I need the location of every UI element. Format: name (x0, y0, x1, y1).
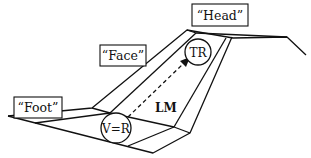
face-label-box: “Face” (100, 45, 146, 66)
circle-tr: TR (185, 39, 211, 65)
circle-v-r-label: V=R (101, 122, 131, 136)
lm-label: LM (155, 101, 177, 115)
head-label-box: “Head” (192, 4, 248, 26)
circle-tr-label: TR (189, 46, 207, 60)
slope-diagram: TR V=R LM “Head” “Face” “Foot” (0, 0, 311, 158)
slope-outline (8, 30, 306, 153)
foot-label: “Foot” (18, 100, 59, 115)
circle-v-r: V=R (101, 113, 131, 143)
face-label: “Face” (102, 48, 144, 63)
foot-label-box: “Foot” (14, 97, 62, 118)
head-label: “Head” (197, 8, 244, 23)
